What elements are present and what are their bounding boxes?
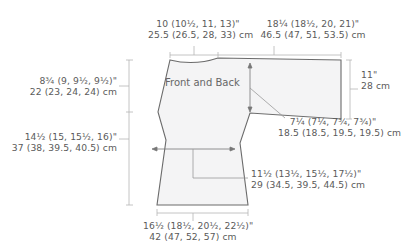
left-dimension-lines [119,60,133,205]
sleeve-depth-inches: 11" [361,69,390,80]
yoke-depth-label: 8¾ (9, 9½, 9½)" 22 (23, 24, 24) cm [0,75,117,97]
shoulder-width-cm: 46.5 (47, 51, 53.5) cm [258,29,368,40]
sleeve-depth-line [346,60,358,119]
sleeve-depth-label: 11" 28 cm [361,69,390,91]
armhole-depth-label: 7¼ (7¼, 7¾, 7¾)" 18.5 (18.5, 19.5, 19.5)… [278,116,388,138]
neck-width-cm: 25.5 (26.5, 28, 33) cm [148,29,248,40]
armhole-depth-cm: 18.5 (18.5, 19.5, 19.5) cm [278,127,388,138]
neck-width-label: 10 (10½, 11, 13)" 25.5 (26.5, 28, 33) cm [148,18,248,40]
neck-width-inches: 10 (10½, 11, 13)" [148,18,248,29]
yoke-depth-inches: 8¾ (9, 9½, 9½)" [0,75,117,86]
hem-width-cm: 42 (47, 52, 57) cm [143,231,243,242]
body-length-cm: 37 (38, 39.5, 40.5) cm [0,142,117,153]
waist-width-label: 11½ (13½, 15½, 17½)" 29 (34.5, 39.5, 44.… [251,168,359,190]
hem-width-label: 16½ (18½, 20½, 22½)" 42 (47, 52, 57) cm [143,220,243,242]
hem-width-inches: 16½ (18½, 20½, 22½)" [143,220,243,231]
armhole-depth-inches: 7¼ (7¼, 7¾, 7¾)" [278,116,388,127]
shoulder-width-inches: 18¼ (18½, 20, 21)" [258,18,368,29]
yoke-depth-cm: 22 (23, 24, 24) cm [0,86,117,97]
top-dimension-line [170,46,341,58]
body-length-label: 14½ (15, 15½, 16)" 37 (38, 39.5, 40.5) c… [0,131,117,153]
body-length-inches: 14½ (15, 15½, 16)" [0,131,117,142]
sleeve-depth-cm: 28 cm [361,80,390,91]
shoulder-width-label: 18¼ (18½, 20, 21)" 46.5 (47, 51, 53.5) c… [258,18,368,40]
waist-width-cm: 29 (34.5, 39.5, 44.5) cm [251,179,359,190]
piece-title: Front and Back [165,77,240,88]
waist-width-inches: 11½ (13½, 15½, 17½)" [251,168,359,179]
